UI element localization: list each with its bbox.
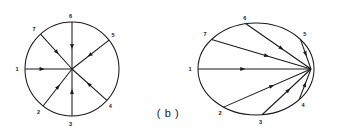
arrowhead-node-4: [302, 82, 306, 88]
node-label-2: 2: [219, 110, 222, 116]
node-label-1: 1: [188, 66, 191, 72]
node-label-4: 4: [302, 102, 306, 108]
arrowhead-node-6: [70, 44, 74, 49]
arrowhead-node-1: [240, 67, 245, 71]
node-label-6: 6: [243, 15, 246, 21]
node-label-7: 7: [32, 26, 35, 32]
arrowhead-node-3: [70, 89, 74, 94]
node-label-2: 2: [37, 109, 40, 115]
node-label-5: 5: [303, 31, 306, 37]
figure-container: 12345671234567 ( b ): [0, 0, 347, 138]
node-label-4: 4: [109, 103, 113, 109]
figure-svg: 12345671234567 ( b ): [0, 0, 347, 138]
node-label-1: 1: [15, 66, 18, 72]
node-label-6: 6: [69, 13, 72, 19]
node-label-5: 5: [111, 32, 114, 38]
arrowhead-node-1: [40, 67, 45, 71]
arrowhead-node-2: [269, 85, 275, 89]
ellipse-converging-graph: 1234567: [188, 15, 314, 126]
edge-node-6: [246, 24, 311, 69]
edge-node-7: [212, 39, 311, 69]
node-label-7: 7: [204, 31, 207, 37]
arrowhead-node-6: [278, 45, 283, 50]
node-label-3: 3: [69, 121, 72, 127]
circle-star-graph: 1234567: [15, 13, 119, 127]
node-label-3: 3: [259, 119, 262, 125]
arrowhead-node-7: [264, 53, 270, 57]
figure-caption: ( b ): [157, 107, 180, 119]
arrowhead-node-5: [303, 51, 307, 57]
